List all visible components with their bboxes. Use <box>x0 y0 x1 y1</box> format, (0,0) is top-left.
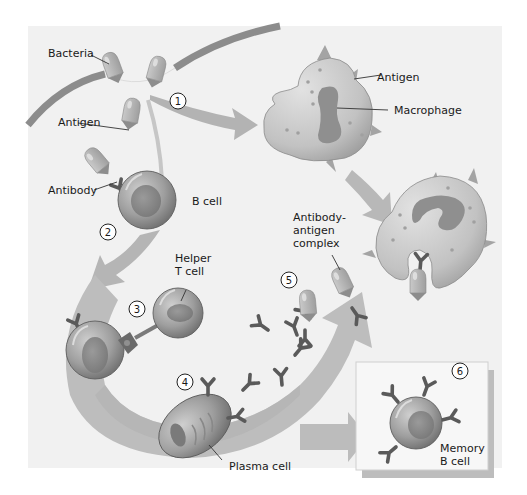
label-bacteria: Bacteria <box>48 47 94 60</box>
label-complex-3: complex <box>293 237 340 250</box>
label-memory-b-cell-2: B cell <box>440 455 470 468</box>
svg-text:1: 1 <box>175 96 181 107</box>
step-6-marker: 6 <box>452 363 468 379</box>
label-memory-b-cell-1: Memory <box>440 442 485 455</box>
svg-text:6: 6 <box>457 366 463 377</box>
label-complex-1: Antibody- <box>293 211 346 224</box>
step-1-marker: 1 <box>170 93 186 109</box>
label-b-cell: B cell <box>192 195 222 208</box>
label-complex-2: antigen <box>293 224 335 237</box>
step-3-marker: 3 <box>129 301 145 317</box>
label-helper-t-cell-1: Helper <box>175 252 212 265</box>
immune-response-diagram: Bacteria Antigen Antigen Macrophage Anti… <box>0 0 527 495</box>
step-2-marker: 2 <box>100 224 116 240</box>
svg-text:3: 3 <box>134 304 140 315</box>
svg-text:4: 4 <box>182 377 188 388</box>
label-helper-t-cell-2: T cell <box>174 265 204 278</box>
label-plasma-cell: Plasma cell <box>229 460 291 473</box>
step-5-marker: 5 <box>281 272 297 288</box>
step-4-marker: 4 <box>177 374 193 390</box>
helper-t-cell <box>153 288 203 338</box>
label-antigen-macrophage: Antigen <box>377 71 420 84</box>
svg-text:5: 5 <box>286 275 292 286</box>
label-antibody: Antibody <box>48 184 98 197</box>
label-antigen-top: Antigen <box>58 116 101 129</box>
label-macrophage: Macrophage <box>394 104 462 117</box>
svg-text:2: 2 <box>105 227 111 238</box>
